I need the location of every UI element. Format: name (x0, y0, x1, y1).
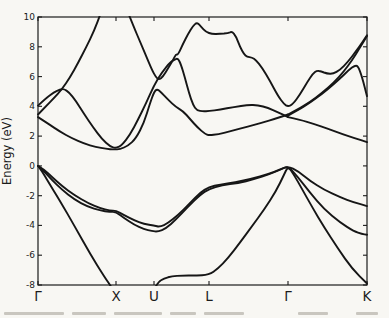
valence-band-1-gamma-to-X (38, 166, 113, 290)
y-tick-label: -6 (26, 250, 35, 260)
x-tick-label-2: X (111, 288, 120, 304)
x-tick-label-1: Γ (34, 288, 42, 304)
caption-remnant (0, 311, 389, 318)
axes: 1086420-2-4-6-8ΓXULΓK (24, 12, 373, 304)
valence-band-1-U-to-K (154, 168, 367, 289)
x-tick-label-6: K (363, 288, 373, 304)
scanned-figure-page: 1086420-2-4-6-8ΓXULΓK Energy (eV) (0, 0, 389, 318)
y-tick-label: -2 (26, 191, 35, 201)
y-tick-label: 8 (29, 42, 35, 52)
valence-band-3 (38, 166, 367, 235)
y-tick-label: 2 (29, 131, 35, 141)
x-tick-label-4: L (205, 288, 213, 304)
y-tick-label: 4 (29, 101, 35, 111)
y-tick-label: 0 (29, 161, 35, 171)
y-tick-label: -4 (26, 220, 35, 230)
conduction-band-upper (128, 13, 367, 107)
y-tick-label: 6 (29, 72, 35, 82)
conduction-band-steep-gamma-X (38, 13, 101, 115)
y-tick-label: 10 (24, 12, 36, 22)
conduction-band-1 (38, 90, 288, 150)
conduction-band-gamma-K-lower (288, 117, 367, 142)
x-tick-label-3: U (149, 288, 159, 304)
band-structure-chart: 1086420-2-4-6-8ΓXULΓK Energy (eV) (0, 0, 389, 318)
band-curves (38, 13, 367, 290)
y-axis-title: Energy (eV) (0, 117, 14, 185)
x-tick-label-5: Γ (284, 288, 292, 304)
conduction-band-2 (38, 59, 288, 148)
conduction-band-gamma-K-rising (288, 36, 367, 114)
